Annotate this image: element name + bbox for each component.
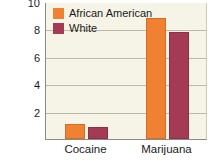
legend-item-african-american: African American [53,8,152,19]
y-tick-label: 6 [34,53,40,63]
x-tick-label-cocaine: Cocaine [64,143,106,155]
y-tick-label: 10 [28,0,40,8]
legend-item-white: White [53,23,152,34]
bar-cocaine-white [88,127,108,139]
chart-legend: African American White [53,8,152,34]
legend-label-white: White [69,23,97,34]
bar-cocaine-african-american [65,124,85,139]
legend-swatch-icon-african-american [53,8,64,19]
bar-marijuana-white [169,32,189,139]
x-tick-label-marijuana: Marijuana [141,143,192,155]
bar-marijuana-african-american [146,18,166,139]
y-tick-label: 8 [34,25,40,35]
y-axis-tick-labels: 108642 [26,0,42,142]
chart-figure: Percentage using during past month 10864… [0,0,212,163]
y-tick-label: 2 [34,108,40,118]
legend-swatch-icon-white [53,23,64,34]
x-axis-tick-labels: CocaineMarijuana [45,143,207,161]
legend-label-african-american: African American [69,8,152,19]
y-tick-label: 4 [34,80,40,90]
